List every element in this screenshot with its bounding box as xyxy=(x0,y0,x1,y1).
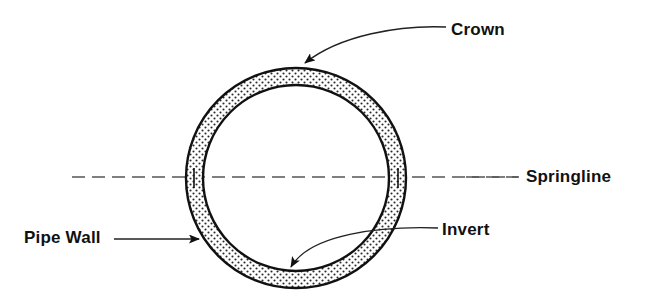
crown-leader-line xyxy=(305,27,446,63)
label-springline: Springline xyxy=(526,167,611,187)
pipe-cross-section-diagram: Crown Springline Invert Pipe Wall xyxy=(0,0,647,297)
label-crown: Crown xyxy=(451,20,505,40)
pipe-wall-annulus xyxy=(180,62,415,297)
label-pipe-wall: Pipe Wall xyxy=(24,228,101,248)
pipe-diagram-canvas xyxy=(0,0,647,297)
label-invert: Invert xyxy=(442,220,490,240)
